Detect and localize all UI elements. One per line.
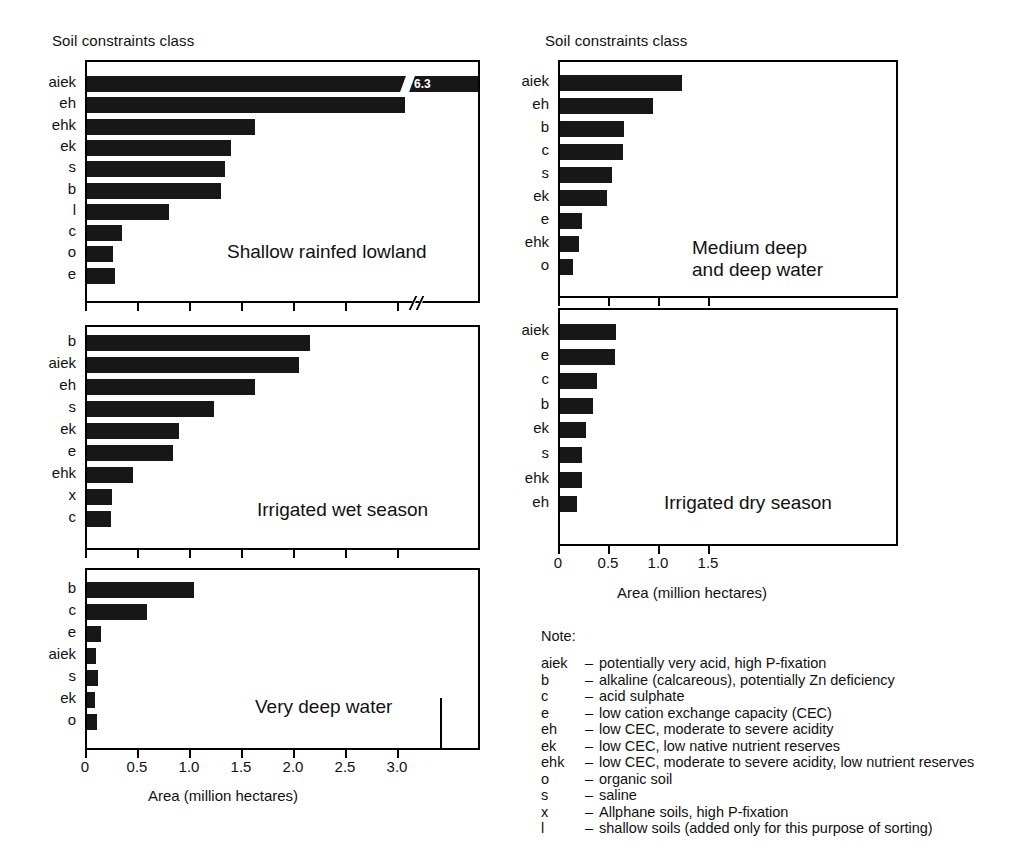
- bar-medium-deep-and-deep-water-s: [560, 167, 612, 183]
- y-tick-label-very-deep-water-b: b: [10, 580, 76, 596]
- panel-label-irrigated-wet-season: Irrigated wet season: [257, 499, 428, 521]
- bar-shallow-rainfed-lowland-l: [87, 204, 169, 220]
- y-tick-label-irrigated-wet-season-ehk: ehk: [10, 465, 76, 481]
- bar-irrigated-wet-season-e: [87, 445, 173, 461]
- bar-medium-deep-and-deep-water-b: [560, 121, 624, 137]
- note-text: low CEC, low native nutrient reserves: [599, 738, 840, 755]
- bar-medium-deep-and-deep-water-e: [560, 213, 582, 229]
- y-tick-label-irrigated-dry-season-ehk: ehk: [483, 470, 549, 486]
- note-text: low cation exchange capacity (CEC): [599, 705, 832, 722]
- panel-label-medium-deep-and-deep-water: Medium deep and deep water: [692, 237, 823, 281]
- bar-very-deep-water-c: [87, 604, 147, 620]
- note-dash: –: [585, 721, 599, 738]
- y-tick-label-irrigated-dry-season-b: b: [483, 396, 549, 412]
- bar-shallow-rainfed-lowland-ehk: [87, 119, 255, 135]
- bar-irrigated-wet-season-aiek: [87, 357, 299, 373]
- note-row: c–acid sulphate: [541, 688, 1011, 705]
- y-tick-label-irrigated-dry-season-s: s: [483, 445, 549, 461]
- y-tick-label-irrigated-wet-season-eh: eh: [10, 377, 76, 393]
- y-tick-label-irrigated-dry-season-e: e: [483, 347, 549, 363]
- bar-group-very-deep-water: [87, 570, 478, 748]
- x-tick-irrigated-wet-season-0: [85, 550, 87, 558]
- x-tick-irrigated-dry-season-1: [608, 546, 610, 554]
- bar-very-deep-water-e: [87, 626, 101, 642]
- y-tick-label-medium-deep-and-deep-water-ehk: ehk: [483, 234, 549, 250]
- note-text: low CEC, moderate to severe acidity, low…: [599, 754, 974, 771]
- note-row: ehk–low CEC, moderate to severe acidity,…: [541, 754, 1011, 771]
- note-dash: –: [585, 754, 599, 771]
- bar-irrigated-wet-season-c: [87, 511, 111, 527]
- note-text: organic soil: [599, 771, 672, 788]
- x-tick-shallow-rainfed-lowland-3: [241, 303, 243, 311]
- x-tick-shallow-rainfed-lowland-1: [137, 303, 139, 311]
- y-tick-label-shallow-rainfed-lowland-ehk: ehk: [10, 117, 76, 133]
- x-tick-medium-deep-and-deep-water-3: [708, 298, 710, 306]
- note-text: saline: [599, 787, 637, 804]
- note-key: ek: [541, 738, 585, 755]
- y-tick-label-medium-deep-and-deep-water-b: b: [483, 119, 549, 135]
- note-row: b–alkaline (calcareous), potentially Zn …: [541, 672, 1011, 689]
- x-tick-shallow-rainfed-lowland-4: [293, 303, 295, 311]
- note-row: aiek–potentially very acid, high P-fixat…: [541, 655, 1011, 672]
- y-tick-label-medium-deep-and-deep-water-eh: eh: [483, 96, 549, 112]
- x-tick-shallow-rainfed-lowland-6: [397, 303, 399, 311]
- bar-medium-deep-and-deep-water-eh: [560, 98, 653, 114]
- note-text: low CEC, moderate to severe acidity: [599, 721, 834, 738]
- y-tick-label-shallow-rainfed-lowland-eh: eh: [10, 95, 76, 111]
- x-tick-medium-deep-and-deep-water-0: [558, 298, 560, 306]
- y-tick-label-irrigated-wet-season-ek: ek: [10, 421, 76, 437]
- bar-irrigated-wet-season-ehk: [87, 467, 133, 483]
- x-tick-medium-deep-and-deep-water-2: [658, 298, 660, 306]
- y-tick-label-medium-deep-and-deep-water-s: s: [483, 165, 549, 181]
- y-tick-label-irrigated-wet-season-aiek: aiek: [10, 355, 76, 371]
- y-tick-label-shallow-rainfed-lowland-aiek: aiek: [10, 74, 76, 90]
- bar-irrigated-dry-season-e: [560, 349, 615, 365]
- x-tick-label-irrigated-dry-season-0: 0: [533, 554, 583, 571]
- bar-shallow-rainfed-lowland-c: [87, 225, 122, 241]
- y-tick-label-shallow-rainfed-lowland-l: l: [10, 202, 76, 218]
- note-row: ek–low CEC, low native nutrient reserves: [541, 738, 1011, 755]
- note-dash: –: [585, 688, 599, 705]
- x-tick-very-deep-water-0: [85, 750, 87, 758]
- y-tick-label-medium-deep-and-deep-water-aiek: aiek: [483, 73, 549, 89]
- note-key: eh: [541, 721, 585, 738]
- x-tick-very-deep-water-2: [189, 750, 191, 758]
- bar-very-deep-water-b: [87, 582, 194, 598]
- x-tick-irrigated-wet-season-3: [241, 550, 243, 558]
- bar-shallow-rainfed-lowland-s: [87, 161, 225, 177]
- bar-irrigated-wet-season-b: [87, 335, 310, 351]
- y-tick-label-very-deep-water-ek: ek: [10, 690, 76, 706]
- y-tick-label-medium-deep-and-deep-water-e: e: [483, 211, 549, 227]
- note-text: potentially very acid, high P-fixation: [599, 655, 826, 672]
- bar-irrigated-wet-season-x: [87, 489, 112, 505]
- note-dash: –: [585, 820, 599, 837]
- panel-label-irrigated-dry-season: Irrigated dry season: [664, 492, 832, 514]
- y-tick-label-shallow-rainfed-lowland-o: o: [10, 244, 76, 260]
- x-tick-very-deep-water-5: [345, 750, 347, 758]
- x-tick-label-very-deep-water-1: 0.5: [112, 758, 162, 775]
- x-tick-irrigated-dry-season-2: [658, 546, 660, 554]
- note-row: o–organic soil: [541, 771, 1011, 788]
- bar-medium-deep-and-deep-water-aiek: [560, 75, 682, 91]
- y-tick-label-irrigated-wet-season-e: e: [10, 443, 76, 459]
- y-tick-label-irrigated-dry-season-eh: eh: [483, 494, 549, 510]
- panel-label-line-1: Medium deep: [692, 237, 823, 259]
- plot-area-shallow-rainfed-lowland: 6.3 Shallow rainfed lowland: [85, 60, 480, 303]
- x-tick-irrigated-wet-season-6: [397, 550, 399, 558]
- x-tick-irrigated-dry-season-0: [558, 546, 560, 554]
- note-title: Note:: [541, 628, 1011, 644]
- bar-shallow-rainfed-lowland-ek: [87, 140, 231, 156]
- y-tick-label-very-deep-water-aiek: aiek: [10, 646, 76, 662]
- y-tick-label-very-deep-water-s: s: [10, 668, 76, 684]
- y-tick-label-irrigated-wet-season-b: b: [10, 333, 76, 349]
- x-tick-irrigated-wet-season-2: [189, 550, 191, 558]
- note-dash: –: [585, 672, 599, 689]
- note-dash: –: [585, 787, 599, 804]
- bar-medium-deep-and-deep-water-ehk: [560, 236, 579, 252]
- note-text: Allphane soils, high P-fixation: [599, 804, 788, 821]
- bar-very-deep-water-ek: [87, 692, 95, 708]
- x-tick-very-deep-water-1: [137, 750, 139, 758]
- y-tick-label-irrigated-wet-season-s: s: [10, 399, 76, 415]
- x-tick-shallow-rainfed-lowland-0: [85, 303, 87, 311]
- bar-irrigated-dry-season-ehk: [560, 472, 582, 488]
